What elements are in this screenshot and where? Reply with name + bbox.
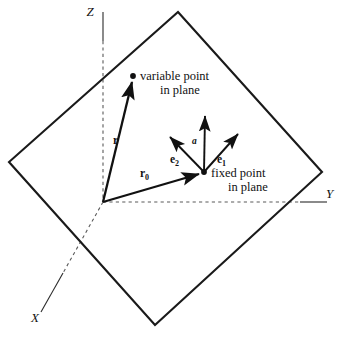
x-axis-visible-segment (41, 273, 63, 312)
vector-r0-label: r0 (140, 167, 149, 182)
fixed-point-dot (201, 169, 207, 175)
axes-solid-group (41, 12, 327, 312)
plane-diagram-svg: Z Y X r r0 e1 e2 a variable point in pla… (0, 0, 339, 342)
figure-container: Z Y X r r0 e1 e2 a variable point in pla… (0, 0, 339, 342)
plane-outline (9, 12, 322, 325)
vector-normal-a (204, 116, 205, 172)
variable-point-dot (130, 73, 136, 79)
variable-point-label: variable point in plane (140, 69, 212, 97)
z-axis-label: Z (86, 4, 94, 19)
vector-r0 (103, 174, 199, 202)
vector-e2-label: e2 (170, 153, 179, 168)
vector-r-label: r (113, 134, 118, 146)
x-axis-hidden-segment (63, 202, 103, 273)
vector-normal-a-label: a (192, 136, 197, 146)
y-axis-label: Y (326, 186, 335, 201)
fixed-point-label: fixed point in plane (211, 166, 269, 194)
x-axis-label: X (30, 310, 40, 325)
